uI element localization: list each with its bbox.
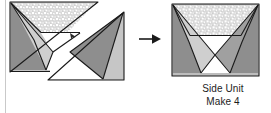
arrow-head: [152, 34, 161, 44]
diagram-canvas: Side Unit Make 4: [0, 0, 271, 113]
left-margin-rule: [5, 0, 6, 113]
figure-caption: Side Unit Make 4: [175, 83, 271, 108]
left-figure-split-unit: [8, 0, 136, 84]
caption-line-2: Make 4: [175, 96, 271, 109]
right-figure-side-unit: [170, 2, 262, 80]
caption-line-1: Side Unit: [175, 83, 271, 96]
right-arrow-icon: [138, 32, 162, 46]
